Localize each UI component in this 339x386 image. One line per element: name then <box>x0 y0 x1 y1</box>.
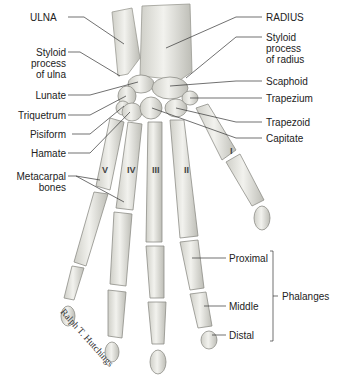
phalanges-bracket <box>270 251 273 341</box>
label-line: Styloid <box>22 47 66 58</box>
label-distal: Distal <box>229 330 254 341</box>
capitate-bone <box>140 97 162 119</box>
radius-bone <box>140 4 192 80</box>
numeral-metacarpal-2: II <box>184 165 189 175</box>
label-line: Metacarpal <box>4 171 66 182</box>
label-middle: Middle <box>229 301 258 312</box>
metacarpal-2 <box>170 120 198 238</box>
label-line: Styloid <box>266 32 304 43</box>
label-scaphoid: Scaphoid <box>266 76 308 87</box>
label-lunate: Lunate <box>22 90 66 101</box>
label-ulna: ULNA <box>30 12 57 23</box>
label-metacarpal-bones: Metacarpal bones <box>4 171 66 193</box>
label-hamate: Hamate <box>14 148 66 159</box>
hand-bones-diagram: ULNA Styloid process of ulna Lunate Triq… <box>0 0 339 386</box>
label-triquetrum: Triquetrum <box>4 110 66 121</box>
label-line: process <box>22 58 66 69</box>
label-pisiform: Pisiform <box>14 129 66 140</box>
leader-trapezoid <box>176 108 262 122</box>
hamate-bone <box>122 103 142 121</box>
label-phalanges: Phalanges <box>282 291 329 302</box>
label-line: process <box>266 43 304 54</box>
label-styloid-process-radius: Styloid process of radius <box>266 32 304 65</box>
label-proximal: Proximal <box>229 253 268 264</box>
label-line: of ulna <box>22 69 66 80</box>
metacarpal-3 <box>146 122 162 242</box>
label-radius: RADIUS <box>266 12 304 23</box>
label-trapezoid: Trapezoid <box>266 117 310 128</box>
numeral-metacarpal-3: III <box>152 165 160 175</box>
label-line: bones <box>4 182 66 193</box>
ulna-bone <box>112 8 140 76</box>
label-styloid-process-ulna: Styloid process of ulna <box>22 47 66 80</box>
numeral-metacarpal-1: I <box>230 146 233 156</box>
label-capitate: Capitate <box>266 133 303 144</box>
numeral-metacarpal-5: V <box>102 165 108 175</box>
leader-metacarpal-5 <box>68 176 100 180</box>
label-trapezium: Trapezium <box>266 93 313 104</box>
leader-styloid-ulna <box>68 52 120 76</box>
numeral-metacarpal-4: IV <box>127 165 136 175</box>
label-line: of radius <box>266 54 304 65</box>
leader-styloid-radius <box>186 37 262 78</box>
